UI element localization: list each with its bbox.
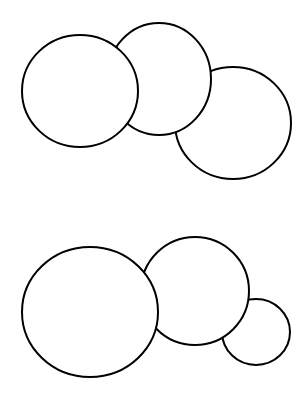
diagram-canvas xyxy=(0,0,305,404)
circle-bottom-large xyxy=(22,247,158,377)
circle-top-left xyxy=(22,35,138,147)
circle-bottom-middle xyxy=(141,237,249,345)
